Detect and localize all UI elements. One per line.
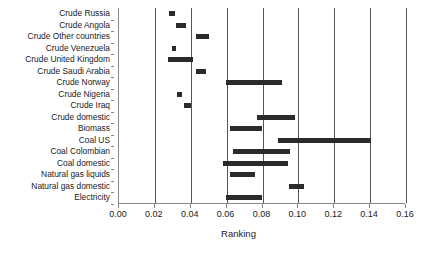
x-tick-label: 0.00 bbox=[109, 209, 127, 219]
range-bar bbox=[226, 80, 282, 85]
bar-row bbox=[119, 100, 405, 112]
x-tick bbox=[333, 204, 334, 208]
y-axis-label: Crude Russia bbox=[59, 8, 110, 20]
range-bar bbox=[223, 161, 288, 166]
y-tick bbox=[111, 135, 114, 136]
y-axis-label: Coal US bbox=[79, 135, 110, 147]
bar-row bbox=[119, 192, 405, 204]
range-bar bbox=[184, 103, 191, 108]
y-axis-label: Crude Venezuela bbox=[46, 43, 110, 55]
x-tick-label: 0.02 bbox=[145, 209, 163, 219]
bar-row bbox=[119, 112, 405, 124]
bar-row bbox=[119, 89, 405, 101]
y-axis-labels: Crude RussiaCrude AngolaCrude Other coun… bbox=[0, 8, 114, 204]
bar-row bbox=[119, 8, 405, 20]
bar-row bbox=[119, 135, 405, 147]
y-tick bbox=[111, 20, 114, 21]
y-axis-label: Crude domestic bbox=[51, 112, 110, 124]
y-axis-label: Natural gas domestic bbox=[31, 181, 110, 193]
bar-row bbox=[119, 77, 405, 89]
y-axis-label: Crude Saudi Arabia bbox=[37, 66, 110, 78]
plot-area bbox=[118, 8, 405, 204]
range-bar bbox=[176, 23, 186, 28]
range-bar bbox=[226, 195, 262, 200]
x-tick-label: 0.16 bbox=[396, 209, 414, 219]
range-bar bbox=[289, 184, 304, 189]
range-bar bbox=[257, 115, 295, 120]
x-tick bbox=[226, 204, 227, 208]
x-tick-label: 0.06 bbox=[217, 209, 235, 219]
y-tick bbox=[111, 89, 114, 90]
bar-row bbox=[119, 31, 405, 43]
range-bar bbox=[196, 69, 206, 74]
y-tick bbox=[111, 112, 114, 113]
x-tick-label: 0.10 bbox=[289, 209, 307, 219]
range-bar bbox=[169, 11, 174, 16]
y-axis-label: Biomass bbox=[78, 123, 110, 135]
bar-row bbox=[119, 43, 405, 55]
y-tick bbox=[111, 158, 114, 159]
y-axis-label: Crude Nigeria bbox=[58, 89, 110, 101]
range-bar bbox=[172, 46, 176, 51]
y-axis-label: Coal domestic bbox=[57, 158, 110, 170]
range-bar bbox=[177, 92, 182, 97]
bar-row bbox=[119, 20, 405, 32]
y-tick bbox=[111, 169, 114, 170]
y-tick bbox=[111, 43, 114, 44]
y-tick bbox=[111, 77, 114, 78]
y-tick bbox=[111, 31, 114, 32]
y-axis-label: Crude Angola bbox=[59, 20, 110, 32]
y-axis-label: Electricity bbox=[74, 192, 110, 204]
bar-row bbox=[119, 169, 405, 181]
bar-row bbox=[119, 158, 405, 170]
chart-figure: Crude RussiaCrude AngolaCrude Other coun… bbox=[0, 0, 437, 253]
x-tick bbox=[262, 204, 263, 208]
x-tick bbox=[118, 204, 119, 208]
range-bar bbox=[230, 172, 255, 177]
y-axis-label: Crude Norway bbox=[56, 77, 110, 89]
x-axis-title-text: Ranking bbox=[221, 228, 256, 239]
gridline bbox=[406, 8, 407, 203]
range-bar bbox=[278, 138, 371, 143]
x-axis-title: Ranking bbox=[0, 228, 437, 239]
y-tick bbox=[111, 146, 114, 147]
y-axis-label: Natural gas liquids bbox=[41, 169, 110, 181]
y-tick bbox=[111, 66, 114, 67]
x-tick-label: 0.12 bbox=[324, 209, 342, 219]
x-tick-label: 0.04 bbox=[181, 209, 199, 219]
y-tick bbox=[111, 123, 114, 124]
range-bar bbox=[233, 149, 290, 154]
x-tick-label: 0.08 bbox=[253, 209, 271, 219]
y-axis-label: Coal Colombian bbox=[50, 146, 110, 158]
range-bar bbox=[230, 126, 262, 131]
x-axis-tick-labels: 0.000.020.040.060.080.100.120.140.16 bbox=[0, 209, 437, 223]
bar-row bbox=[119, 66, 405, 78]
y-axis-label: Crude Other countries bbox=[28, 31, 110, 43]
y-tick bbox=[111, 100, 114, 101]
bar-row bbox=[119, 146, 405, 158]
x-tick bbox=[297, 204, 298, 208]
y-tick bbox=[111, 181, 114, 182]
x-tick bbox=[405, 204, 406, 208]
y-tick bbox=[111, 204, 114, 205]
x-axis-ticks bbox=[118, 204, 405, 208]
x-tick bbox=[154, 204, 155, 208]
range-bar bbox=[196, 34, 208, 39]
y-axis-label: Crude Iraq bbox=[70, 100, 110, 112]
y-tick bbox=[111, 192, 114, 193]
bar-row bbox=[119, 54, 405, 66]
bar-row bbox=[119, 123, 405, 135]
x-tick bbox=[190, 204, 191, 208]
y-tick bbox=[111, 54, 114, 55]
range-bar bbox=[168, 57, 192, 62]
x-tick-label: 0.14 bbox=[360, 209, 378, 219]
bar-row bbox=[119, 181, 405, 193]
x-tick bbox=[369, 204, 370, 208]
y-axis-label: Crude United Kingdom bbox=[25, 54, 110, 66]
